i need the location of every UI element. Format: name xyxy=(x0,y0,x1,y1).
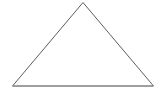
figure-canvas xyxy=(0,0,164,95)
canvas-background xyxy=(0,0,164,95)
triangle-drawing-svg xyxy=(0,0,164,95)
